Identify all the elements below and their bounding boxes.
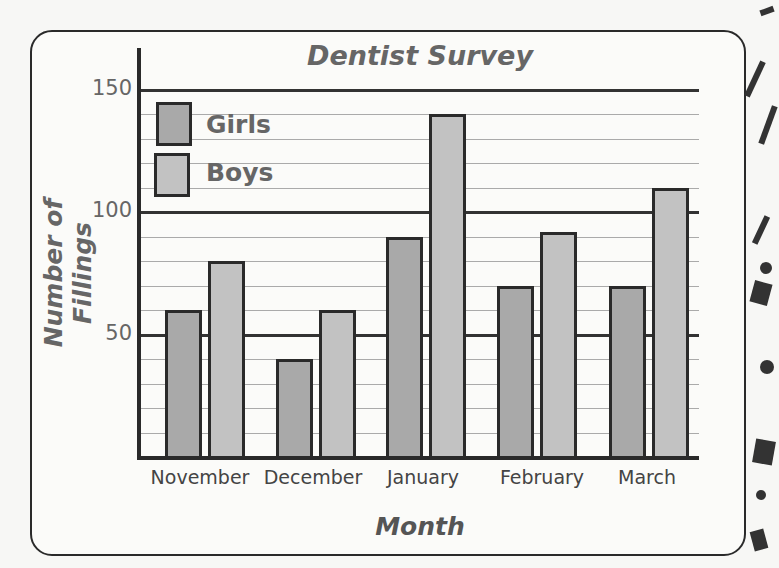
chart-title: Dentist Survey (290, 40, 550, 71)
minor-gridline (141, 188, 699, 189)
bar-girls-february (497, 286, 534, 457)
x-tick-label: March (587, 466, 707, 488)
bar-girls-december (276, 359, 313, 457)
x-tick-label: January (363, 466, 483, 488)
bar-boys-november (208, 261, 245, 457)
y-tick-label: 150 (72, 76, 132, 100)
x-tick-label: November (140, 466, 260, 488)
legend-swatch-boys (154, 153, 190, 197)
bar-girls-january (386, 237, 423, 457)
x-tick-label: February (482, 466, 602, 488)
minor-gridline (141, 139, 699, 140)
bar-girls-november (165, 310, 202, 457)
y-axis-label: Number of Fillings (39, 163, 97, 383)
x-tick-label: December (253, 466, 373, 488)
x-axis-label: Month (340, 512, 500, 541)
y-axis-line (137, 48, 141, 459)
bar-boys-march (652, 188, 689, 457)
bar-boys-january (429, 114, 466, 457)
bar-boys-february (540, 232, 577, 457)
bar-girls-march (609, 286, 646, 457)
x-axis-line (137, 456, 699, 460)
bar-boys-december (319, 310, 356, 457)
major-gridline (141, 89, 699, 92)
major-gridline (141, 211, 699, 214)
legend-label-boys: Boys (206, 158, 273, 187)
legend-label-girls: Girls (206, 110, 271, 139)
legend-swatch-girls (156, 102, 192, 146)
